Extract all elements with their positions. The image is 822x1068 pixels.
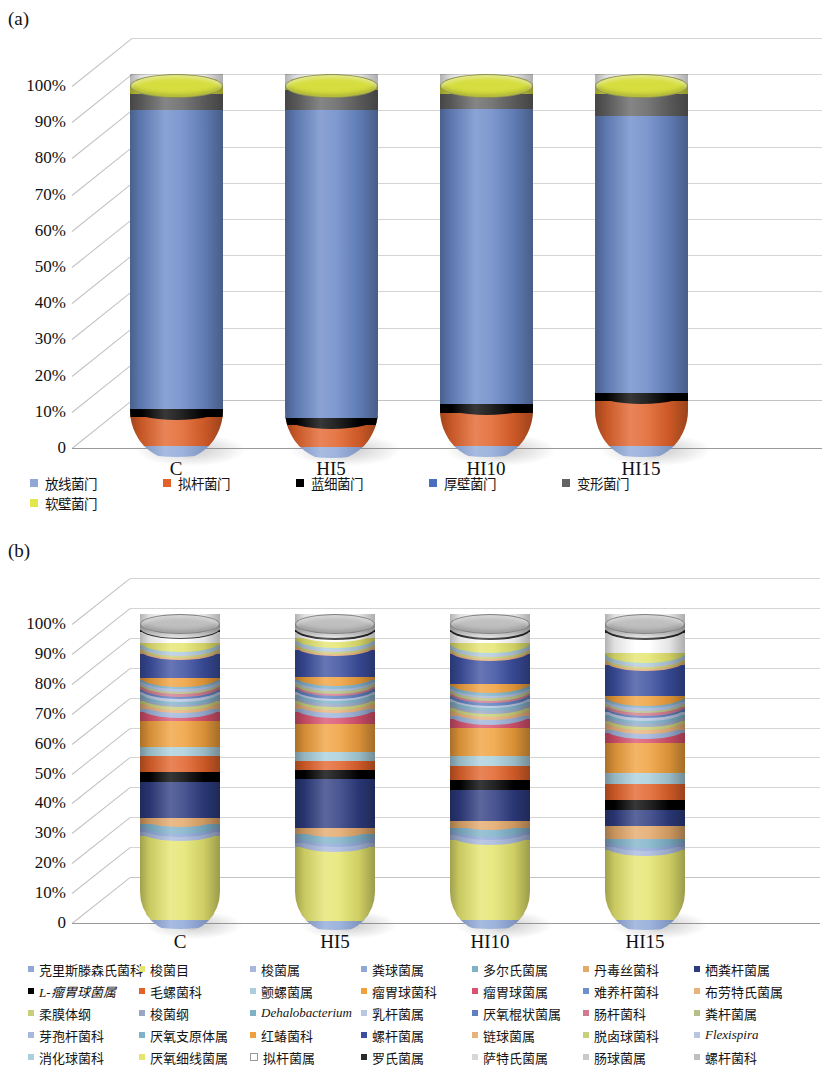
legend-item[interactable]: 拟杆菌门 <box>155 473 288 493</box>
legend-item[interactable]: Flexispira <box>692 1024 803 1046</box>
legend-label: 梭菌纲 <box>150 1004 189 1023</box>
y-axis-tick: 20% <box>35 853 66 873</box>
bar-cylinder <box>605 614 685 933</box>
legend-label: 厌氧支原体属 <box>150 1026 228 1045</box>
legend-item[interactable]: 螺杆菌属 <box>359 1024 470 1046</box>
bar-body <box>140 614 220 933</box>
legend-item[interactable]: 厚壁菌门 <box>421 473 554 493</box>
legend-item[interactable]: 梭菌纲 <box>137 1002 248 1024</box>
legend-color-swatch <box>694 988 700 994</box>
legend-color-swatch <box>361 1032 367 1038</box>
legend-item[interactable]: 瘤胃球菌属 <box>470 980 581 1002</box>
legend-label: 芽孢杆菌科 <box>39 1026 104 1045</box>
legend-item[interactable]: 梭菌目 <box>137 958 248 980</box>
y-axis-tick: 50% <box>35 257 66 277</box>
legend-label: 脱卤球菌科 <box>594 1026 659 1045</box>
axis-depth-line <box>72 877 131 924</box>
legend-item[interactable]: 消化球菌科 <box>26 1046 137 1068</box>
legend-item[interactable]: 难养杆菌科 <box>581 980 692 1002</box>
legend-item[interactable]: 肠杆菌科 <box>581 1002 692 1024</box>
legend-label: 厌氧细线菌属 <box>150 1048 228 1067</box>
legend-item[interactable]: 多尔氏菌属 <box>470 958 581 980</box>
legend-item[interactable]: Dehalobacterium <box>248 1002 359 1024</box>
legend-item[interactable]: 克里斯滕森氏菌科 <box>26 958 137 980</box>
legend-item[interactable]: 粪球菌属 <box>359 958 470 980</box>
legend-item[interactable]: 栖粪杆菌属 <box>692 958 803 980</box>
legend-color-swatch <box>694 1032 700 1038</box>
legend-item[interactable]: 厌氧棍状菌属 <box>470 1002 581 1024</box>
legend-color-swatch <box>250 966 256 972</box>
legend-item[interactable]: 厌氧细线菌属 <box>137 1046 248 1068</box>
bar-cylinder <box>450 614 530 933</box>
legend-label: 变形菌门 <box>577 473 629 493</box>
bar-segment <box>605 850 685 921</box>
bar-body <box>450 614 530 933</box>
bar-cylinder <box>130 74 223 460</box>
legend-item[interactable]: 罗氏菌属 <box>359 1046 470 1068</box>
y-axis-tick: 40% <box>35 293 66 313</box>
legend-color-swatch <box>361 988 367 994</box>
legend-item[interactable]: 瘤胃球菌科 <box>359 980 470 1002</box>
legend-color-swatch <box>139 1010 145 1016</box>
x-axis-tick: C <box>120 931 240 953</box>
legend-item[interactable]: 放线菌门 <box>22 473 155 493</box>
legend-label: 链球菌属 <box>483 1026 535 1045</box>
legend-label: 拟杆菌属 <box>263 1048 315 1067</box>
legend-item[interactable]: 软壁菌门 <box>22 493 155 513</box>
x-axis-tick: HI5 <box>275 931 395 953</box>
legend-item[interactable]: 布劳特氏菌属 <box>692 980 803 1002</box>
legend-color-swatch <box>28 988 34 994</box>
legend-label: 乳杆菌属 <box>372 1004 424 1023</box>
legend-color-swatch <box>250 1032 256 1038</box>
legend-label: 毛螺菌科 <box>150 982 202 1001</box>
legend-color-swatch <box>583 1032 589 1038</box>
gridline <box>130 578 820 579</box>
legend-item[interactable]: 红蝽菌科 <box>248 1024 359 1046</box>
legend-color-swatch <box>694 966 700 972</box>
y-axis-tick: 0 <box>58 438 67 458</box>
legend-item[interactable]: 毛螺菌科 <box>137 980 248 1002</box>
legend-label: 放线菌门 <box>45 473 97 493</box>
legend-item[interactable]: 变形菌门 <box>554 473 687 493</box>
legend-label: 瘤胃球菌科 <box>372 982 437 1001</box>
y-axis-tick: 10% <box>35 883 66 903</box>
legend-item[interactable]: 脱卤球菌科 <box>581 1024 692 1046</box>
axis-depth-line <box>72 758 131 805</box>
bar-segment <box>130 110 223 409</box>
chart-a-phylum: 100%90%80%70%60%50%40%30%20%10%0CHI5HI10… <box>0 24 803 474</box>
legend-item[interactable]: 肠球菌属 <box>581 1046 692 1068</box>
legend-item[interactable]: 蓝细菌门 <box>288 473 421 493</box>
legend-label: 粪球菌属 <box>372 960 424 979</box>
legend-item[interactable]: L-瘤胃球菌属 <box>26 980 137 1002</box>
legend-color-swatch <box>429 479 437 487</box>
legend-item[interactable]: 丹毒丝菌科 <box>581 958 692 980</box>
bar-body <box>595 74 688 460</box>
legend-item[interactable]: 链球菌属 <box>470 1024 581 1046</box>
legend-item[interactable]: 粪杆菌属 <box>692 1002 803 1024</box>
legend-label: 拟杆菌门 <box>178 473 230 493</box>
axis-depth-line <box>72 111 133 160</box>
legend-item[interactable]: 柔膜体纲 <box>26 1002 137 1024</box>
legend-item[interactable]: 芽孢杆菌科 <box>26 1024 137 1046</box>
legend-color-swatch <box>139 1032 145 1038</box>
legend-item[interactable]: 拟杆菌属 <box>248 1046 359 1068</box>
x-axis-tick: HI10 <box>430 931 550 953</box>
legend-color-swatch <box>28 1010 34 1016</box>
legend-color-swatch <box>28 1032 34 1038</box>
legend-color-swatch <box>472 1054 478 1060</box>
y-axis-tick: 80% <box>35 674 66 694</box>
legend-label: 丹毒丝菌科 <box>594 960 659 979</box>
legend-label: 梭菌目 <box>150 960 189 979</box>
legend-item[interactable]: 螺杆菌科 <box>692 1046 803 1068</box>
legend-item[interactable]: 梭菌属 <box>248 958 359 980</box>
legend-color-swatch <box>472 988 478 994</box>
legend-item[interactable]: 乳杆菌属 <box>359 1002 470 1024</box>
legend-item[interactable]: 萨特氏菌属 <box>470 1046 581 1068</box>
bar-cylinder <box>285 74 378 460</box>
legend-item[interactable]: 厌氧支原体属 <box>137 1024 248 1046</box>
y-axis-tick: 90% <box>35 644 66 664</box>
legend-item[interactable]: 颤螺菌属 <box>248 980 359 1002</box>
legend-color-swatch <box>583 1010 589 1016</box>
y-axis-tick: 80% <box>35 148 66 168</box>
y-axis-tick: 70% <box>35 185 66 205</box>
